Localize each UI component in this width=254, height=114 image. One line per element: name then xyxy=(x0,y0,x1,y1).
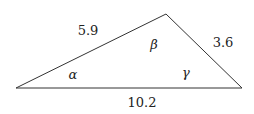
angle-label-alpha: α xyxy=(69,68,78,81)
side-label-base: 10.2 xyxy=(128,96,157,109)
angle-label-gamma: γ xyxy=(182,66,190,79)
triangle xyxy=(16,14,242,88)
angle-label-beta: β xyxy=(150,38,158,51)
side-label-right: 3.6 xyxy=(213,36,234,49)
side-label-left: 5.9 xyxy=(78,24,99,37)
